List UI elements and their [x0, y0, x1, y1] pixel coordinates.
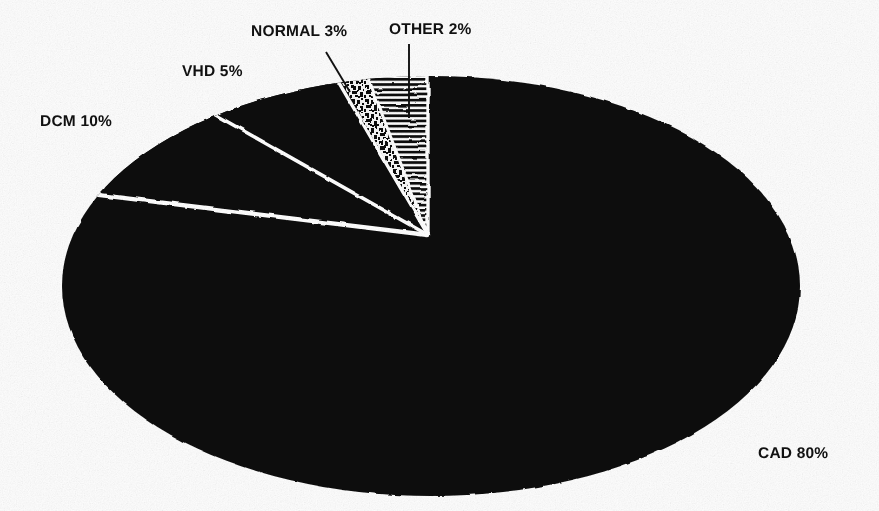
pie-body [40, 46, 800, 496]
slice-label-normal: NORMAL 3% [251, 24, 347, 40]
pie-chart-canvas [0, 0, 879, 511]
slice-label-cad: CAD 80% [758, 446, 828, 462]
slice-label-dcm: DCM 10% [40, 114, 112, 130]
slice-label-other: OTHER 2% [389, 22, 472, 38]
slice-label-vhd: VHD 5% [182, 64, 243, 80]
pie-chart-figure: NORMAL 3% OTHER 2% VHD 5% DCM 10% CAD 80… [0, 0, 879, 511]
